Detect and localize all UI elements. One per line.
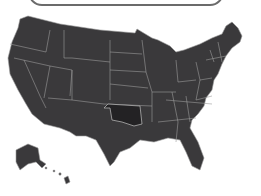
contiguous-us <box>8 16 242 170</box>
us-map <box>0 0 261 196</box>
state-alaska <box>16 144 46 170</box>
state-hawaii <box>45 167 70 184</box>
